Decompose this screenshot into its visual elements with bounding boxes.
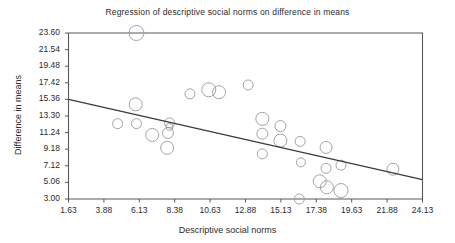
plot-area (0, 0, 455, 243)
data-point-bubble (202, 83, 216, 97)
data-point-bubble (131, 119, 141, 129)
data-points (113, 26, 399, 205)
data-point-bubble (256, 112, 269, 125)
axes (69, 33, 424, 199)
data-point-bubble (275, 121, 286, 132)
data-point-bubble (185, 89, 195, 99)
data-point-bubble (146, 128, 159, 141)
data-point-bubble (321, 163, 331, 173)
data-point-bubble (296, 158, 305, 167)
data-point-bubble (257, 128, 268, 139)
data-point-bubble (243, 80, 253, 90)
data-point-bubble (113, 119, 123, 129)
data-point-bubble (320, 141, 332, 153)
data-point-bubble (213, 86, 226, 99)
tick-marks (65, 33, 423, 203)
data-point-bubble (129, 98, 142, 111)
regression-line (69, 99, 423, 179)
data-point-bubble (161, 141, 174, 154)
data-point-bubble (274, 134, 287, 147)
chart-figure: Regression of descriptive social norms o… (0, 0, 455, 243)
data-point-bubble (334, 184, 348, 198)
data-point-bubble (257, 149, 267, 159)
data-point-bubble (295, 136, 305, 146)
